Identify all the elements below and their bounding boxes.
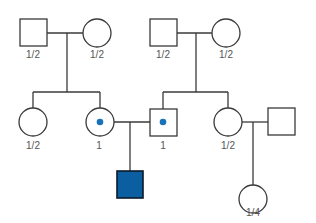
female-symbol-II4: [214, 108, 242, 136]
female-symbol-I4: [212, 19, 240, 47]
male-symbol-I1: [20, 19, 47, 46]
male-symbol-II5: [268, 108, 295, 135]
pedigree-chart: [0, 0, 316, 223]
female-symbol-I2: [83, 19, 111, 47]
probability-label-II1: 1/2: [26, 141, 40, 151]
male-symbol-III1-affected: [117, 171, 143, 198]
probability-label-II2: 1: [96, 141, 102, 151]
probability-label-II3: 1: [160, 141, 166, 151]
probability-label-I1: 1/2: [26, 50, 40, 60]
female-symbol-II1: [19, 108, 47, 136]
probability-label-I4: 1/2: [219, 50, 233, 60]
probability-label-II4: 1/2: [221, 141, 235, 151]
male-symbol-I3: [150, 19, 177, 46]
probability-label-I3: 1/2: [156, 50, 170, 60]
probability-label-I2: 1/2: [90, 50, 104, 60]
carrier-dot-icon: [97, 119, 104, 126]
probability-label-III2: 1/4: [246, 208, 260, 218]
carrier-dot-icon: [160, 119, 167, 126]
